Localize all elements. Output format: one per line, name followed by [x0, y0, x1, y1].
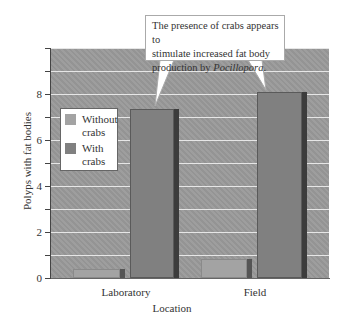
annotation-species: Pocillopora	[213, 62, 263, 73]
annotation-line: The presence of crabs appears to	[152, 20, 279, 45]
annotation-punct: .	[263, 62, 266, 73]
annotation-line: stimulate increased fat body	[152, 48, 270, 59]
annotation-line: production by	[152, 62, 213, 73]
annotation-callout: The presence of crabs appears to stimula…	[145, 15, 285, 61]
